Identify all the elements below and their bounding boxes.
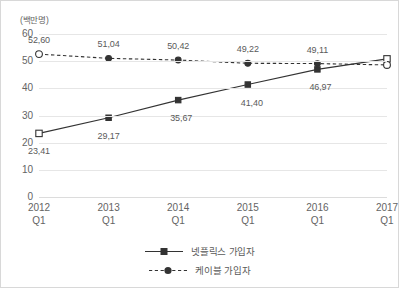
x-axis-tick-label: 2015Q1 (237, 201, 259, 227)
legend-key-dashed-circle-icon (148, 265, 188, 276)
y-axis-tick-label: 40 (22, 83, 33, 93)
y-axis-tick-label: 10 (22, 165, 33, 175)
data-point-marker (176, 97, 181, 102)
y-axis-tick-label: 50 (22, 56, 33, 66)
x-axis-tick-label: 2017Q1 (376, 201, 398, 227)
data-point-label: 23,41 (28, 147, 50, 156)
data-point-label: 49,11 (307, 45, 328, 54)
x-axis-tick-label: 2012Q1 (28, 201, 50, 227)
gridline-40: 40 (39, 88, 387, 89)
data-point-label: 29,17 (98, 131, 120, 140)
gridline-60: 60 (39, 34, 387, 35)
data-point-label: 35,67 (170, 114, 192, 123)
data-point-label: 52,60 (28, 36, 50, 45)
data-point-label: 41,40 (241, 98, 263, 107)
data-point-marker (315, 67, 320, 72)
x-axis-tick-label: 2016Q1 (306, 201, 328, 227)
data-point-marker (245, 82, 250, 87)
data-point-marker (36, 51, 43, 58)
y-axis-tick-label: 30 (22, 111, 33, 121)
plot-area: 010203040506023,4129,1735,6741,4046,9750… (39, 34, 387, 197)
chart-legend: 넷플릭스 가입자 케이블 가입자 (1, 244, 398, 277)
data-point-marker (36, 130, 42, 136)
data-point-label: 46,97 (309, 83, 331, 92)
legend-item-cable: 케이블 가입자 (148, 263, 250, 277)
series-line-1 (39, 59, 387, 134)
gridline-30: 30 (39, 116, 387, 117)
data-point-marker (384, 62, 391, 69)
data-point-label: 51,04 (98, 40, 120, 49)
gridline-20: 20 (39, 143, 387, 144)
legend-key-solid-square-icon (144, 246, 184, 257)
x-axis-tick-label: 2014Q1 (167, 201, 189, 227)
y-axis-unit-label: (백만명) (20, 13, 49, 25)
line-chart-figure: (백만명) 010203040506023,4129,1735,6741,404… (0, 0, 399, 288)
series-line-2 (39, 54, 387, 65)
gridline-0: 0 (39, 197, 387, 198)
x-axis-tick-label: 2013Q1 (97, 201, 119, 227)
legend-label-netflix: 넷플릭스 가입자 (191, 244, 255, 258)
gridline-50: 50 (39, 61, 387, 62)
x-axis-labels: 2012Q12013Q12014Q12015Q12016Q12017Q1 (39, 201, 387, 241)
legend-item-netflix: 넷플릭스 가입자 (144, 244, 255, 258)
gridline-10: 10 (39, 170, 387, 171)
data-point-label: 50,42 (167, 42, 189, 51)
legend-label-cable: 케이블 가입자 (195, 263, 250, 277)
data-point-label: 49,22 (237, 45, 259, 54)
